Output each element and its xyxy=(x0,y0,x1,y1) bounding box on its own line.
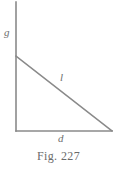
label-vertical-side-g: g xyxy=(4,27,10,38)
triangle-diagram xyxy=(0,0,117,170)
hypotenuse-line xyxy=(16,56,112,131)
label-horizontal-side-d: d xyxy=(58,133,64,144)
label-hypotenuse-l: l xyxy=(60,72,63,83)
figure-container: g l d Fig. 227 xyxy=(0,0,117,170)
figure-caption: Fig. 227 xyxy=(0,149,117,163)
